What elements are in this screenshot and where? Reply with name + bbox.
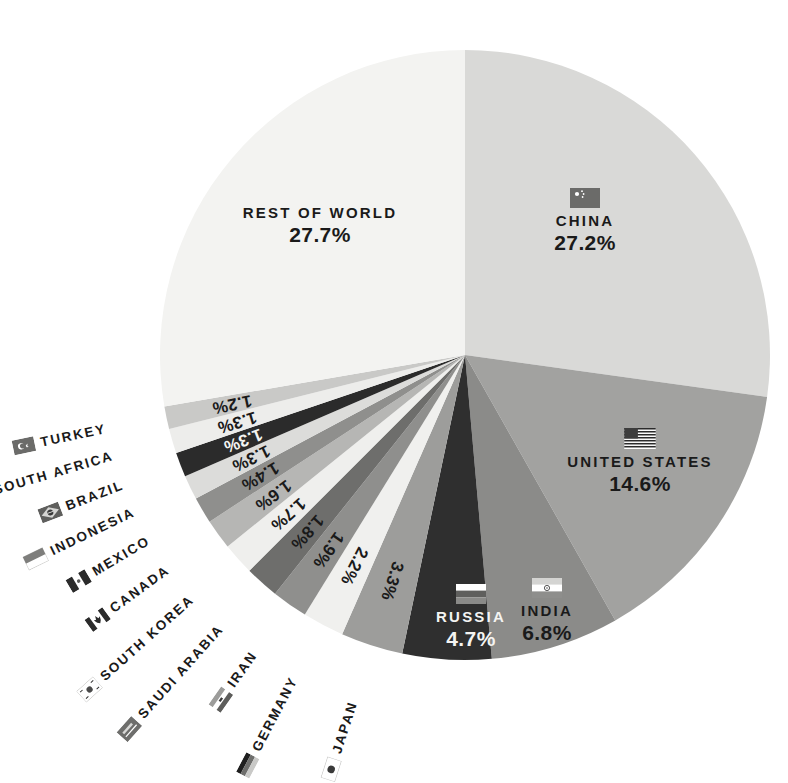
- pie-slice-china[interactable]: [465, 50, 770, 397]
- pie-slice-rest-of-world[interactable]: [160, 50, 465, 406]
- flag-japan-icon: [320, 757, 341, 783]
